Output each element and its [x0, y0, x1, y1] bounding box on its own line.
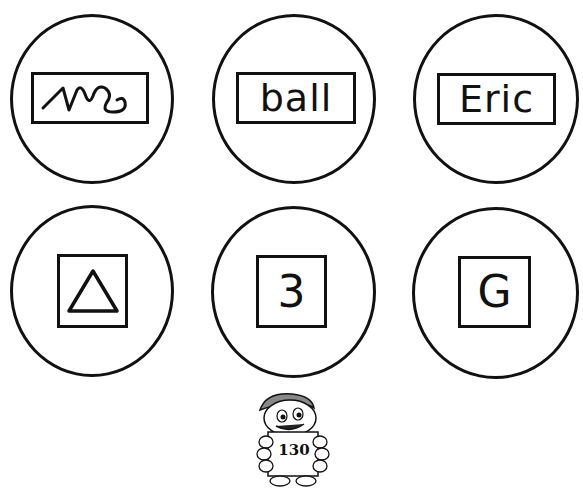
- word-ball: ball: [260, 79, 333, 117]
- word-box-ball: ball: [236, 72, 356, 124]
- glyph-three: 3: [278, 270, 306, 314]
- square-box-g: G: [458, 256, 531, 328]
- square-box-three: 3: [256, 255, 327, 328]
- page-number: 130: [270, 441, 318, 459]
- square-box-triangle: [57, 254, 128, 328]
- glyph-g: G: [477, 270, 511, 314]
- word-eric: Eric: [459, 80, 534, 118]
- triangle-icon: [65, 265, 121, 317]
- scribble-icon: [35, 76, 145, 120]
- word-box-eric: Eric: [437, 73, 556, 125]
- mascot-icon: [246, 388, 338, 488]
- word-box-scribble: [31, 72, 149, 124]
